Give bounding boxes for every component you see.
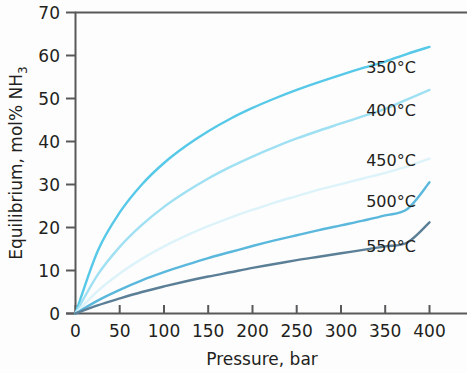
series-label-450C: 450°C: [366, 151, 416, 170]
x-tick-label: 250: [280, 321, 312, 341]
series-label-400C: 400°C: [366, 101, 416, 120]
x-axis-title: Pressure, bar: [206, 349, 318, 369]
y-tick-label: 50: [38, 89, 60, 109]
x-tick-label: 0: [70, 321, 81, 341]
x-tick-label: 150: [192, 321, 224, 341]
equilibrium-ammonia-line-chart: 70 60 50 40 30 20 10 0 0 50 100 150 200 …: [0, 0, 467, 373]
y-tick-label: 30: [38, 175, 60, 195]
x-tick-label: 50: [109, 321, 131, 341]
x-tick-label: 100: [148, 321, 180, 341]
x-tick-label: 200: [236, 321, 268, 341]
svg-text:Equilibrium, mol% NH3: Equilibrium, mol% NH3: [6, 66, 30, 260]
x-tick-labels: 0 50 100 150 200 250 300 350 400: [70, 321, 446, 341]
x-tick-label: 350: [369, 321, 401, 341]
y-axis-title-subscript: 3: [16, 66, 30, 74]
y-tick-label: 0: [49, 304, 60, 324]
y-tick-label: 40: [38, 132, 60, 152]
y-tick-label: 70: [38, 3, 60, 23]
series-label-350C: 350°C: [366, 58, 416, 77]
x-tick-label: 400: [413, 321, 445, 341]
series-line-350C: [76, 47, 430, 314]
y-tick-label: 60: [38, 46, 60, 66]
chart-figure: 70 60 50 40 30 20 10 0 0 50 100 150 200 …: [0, 0, 467, 373]
y-axis-title-main: Equilibrium, mol% NH: [6, 74, 26, 260]
y-tick-labels: 70 60 50 40 30 20 10 0: [38, 3, 60, 324]
series-label-500C: 500°C: [366, 192, 416, 211]
y-axis-title: Equilibrium, mol% NH3: [6, 66, 30, 260]
y-tick-label: 10: [38, 261, 60, 281]
x-tick-label: 300: [325, 321, 357, 341]
y-tick-label: 20: [38, 218, 60, 238]
series-curves: [76, 47, 430, 314]
series-labels: 350°C400°C450°C500°C550°C: [366, 58, 416, 256]
series-label-550C: 550°C: [366, 237, 416, 256]
